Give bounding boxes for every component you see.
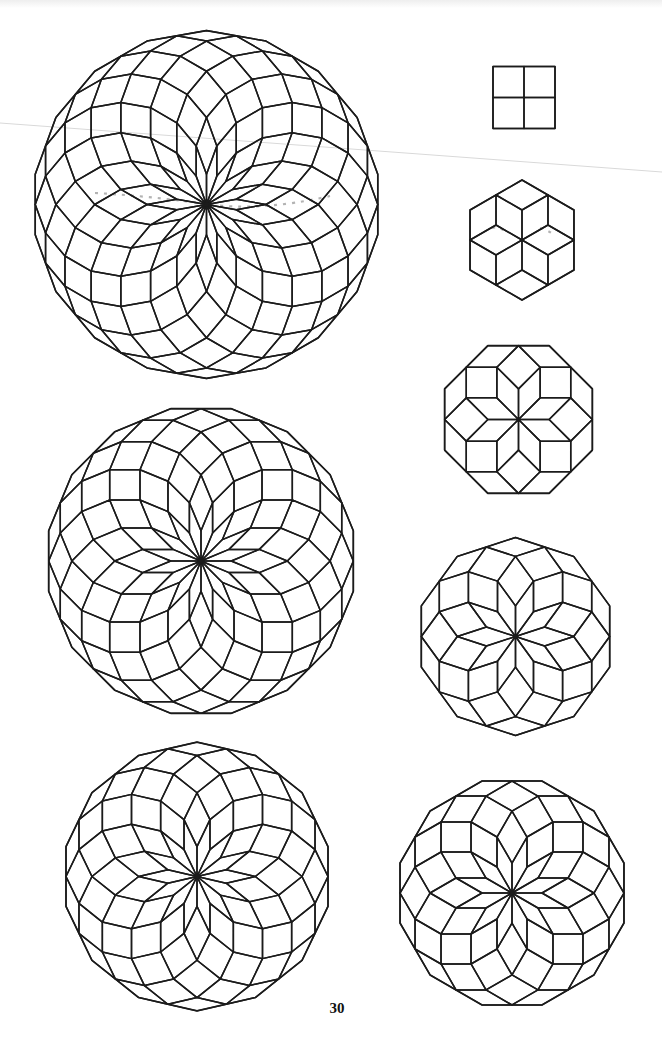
- rhombus-tile: [229, 528, 281, 549]
- rhombus-tile: [497, 893, 512, 949]
- rhombus-tile: [441, 822, 471, 852]
- rhombus-tile: [400, 837, 415, 893]
- rhombus-tile: [189, 591, 212, 647]
- rhombus-tile: [82, 641, 122, 681]
- rhombus-tile: [168, 742, 226, 755]
- rhombus-tile: [439, 661, 468, 701]
- rhombus-tile: [49, 503, 61, 561]
- rhombus-tile: [65, 138, 101, 181]
- rhombus-tile: [262, 102, 292, 137]
- rhombus-tile: [79, 877, 115, 923]
- rhombus-tile: [320, 481, 341, 533]
- rhombus-tile: [415, 796, 456, 837]
- rhombus-tile: [213, 481, 234, 533]
- rhombus-tile: [168, 453, 201, 502]
- rhombus-tile: [281, 641, 321, 681]
- rhombus-tile: [161, 774, 197, 820]
- rhombus-tile: [121, 528, 173, 549]
- rhombus-tile: [161, 56, 207, 94]
- rhombus-tile: [231, 549, 287, 572]
- rhombus-tile: [466, 346, 518, 368]
- rhombus-tile: [486, 975, 538, 1005]
- rhombus-tile: [252, 74, 292, 108]
- rhombus-tile: [519, 420, 571, 442]
- rhombus-tile: [184, 906, 210, 960]
- rhombus-tile: [121, 680, 173, 701]
- rhombus-tile: [563, 661, 592, 701]
- rhombus-tile: [512, 990, 568, 1005]
- rhombus-tile: [338, 153, 368, 205]
- rhombus-tile: [466, 398, 518, 420]
- rhombus-tile: [152, 420, 201, 453]
- rhombus-tile: [415, 893, 456, 934]
- rhombus-tile: [497, 837, 512, 893]
- rhombus-tile: [110, 470, 140, 500]
- rhombus-tile: [168, 998, 226, 1011]
- rhombus-tile: [201, 420, 250, 453]
- rhombus-tile: [262, 271, 292, 306]
- figures-layer: [35, 31, 624, 1011]
- rhombus-tile: [493, 98, 524, 129]
- rhombus-tile: [217, 123, 236, 176]
- rhombus-tile: [367, 146, 377, 205]
- rhombus-tile: [201, 561, 259, 573]
- hexagon-6gon-rosette: [470, 180, 574, 300]
- rhombus-tile: [266, 189, 318, 219]
- rhombus-tile: [542, 878, 594, 908]
- rhombus-tile: [471, 949, 512, 990]
- rhombus-tile: [207, 146, 217, 205]
- rhombus-tile: [180, 647, 223, 690]
- rhombus-tile: [72, 540, 115, 583]
- rhombus-tile: [524, 67, 555, 98]
- rhombus-tile: [312, 138, 348, 181]
- rhombus-tile: [91, 243, 131, 277]
- rhombus-tile: [207, 199, 266, 209]
- rhombus-tile: [282, 133, 322, 167]
- dodecagon-12gon-rosette: [400, 781, 624, 1005]
- rhombus-tile: [609, 893, 624, 949]
- rhombus-tile: [292, 205, 338, 243]
- rhombus-tile: [549, 398, 592, 441]
- rhombus-tile: [497, 811, 527, 863]
- rhombus-tile: [400, 893, 415, 949]
- rhombus-tile: [201, 619, 234, 668]
- rhombus-tile: [92, 858, 139, 895]
- rhombus-tile: [524, 98, 555, 129]
- rhombus-tile: [512, 893, 553, 934]
- rhombus-tile: [312, 228, 348, 271]
- rhombus-tile: [139, 870, 197, 883]
- rhombus-tile: [496, 270, 548, 300]
- rhombus-tile: [35, 205, 45, 264]
- rhombus-tile: [177, 31, 236, 41]
- rhombus-tile: [56, 181, 95, 227]
- rhombus-tile: [213, 589, 234, 641]
- rhombus-tile: [143, 561, 201, 573]
- rhombus-tile: [471, 796, 512, 837]
- rhombus-tile: [338, 205, 368, 257]
- rhombus-tile: [152, 669, 201, 702]
- rhombus-tile: [196, 235, 217, 292]
- rhombus-tile: [210, 801, 233, 850]
- rhombus-tile: [563, 572, 592, 612]
- rhombus-tile: [262, 470, 292, 500]
- hexadecagon-16gon-center-point: [199, 559, 203, 563]
- rhombus-tile: [281, 500, 321, 540]
- rhombus-tile: [439, 572, 468, 612]
- figure-canvas: [0, 0, 662, 1053]
- rhombus-tile: [93, 528, 142, 561]
- rhombus-tile: [421, 581, 439, 636]
- rhombus-tile: [180, 432, 223, 475]
- rhombus-tile: [151, 286, 187, 329]
- rhombus-tile: [471, 893, 512, 934]
- rhombus-tile: [468, 572, 497, 612]
- rhombus-tile: [161, 903, 184, 952]
- rhombus-tile: [439, 637, 486, 671]
- rhombus-tile: [161, 933, 197, 979]
- rhombus-tile: [177, 123, 196, 176]
- rhombus-tile: [498, 556, 534, 606]
- rhombus-tile: [457, 627, 515, 646]
- rhombus-tile: [140, 500, 180, 540]
- rhombus-tile: [466, 472, 518, 494]
- rhombus-tile: [46, 233, 65, 286]
- rhombus-tile: [222, 500, 262, 540]
